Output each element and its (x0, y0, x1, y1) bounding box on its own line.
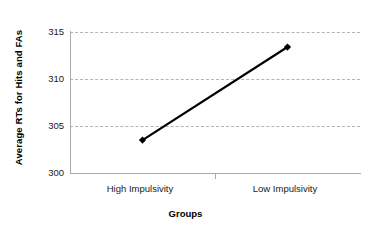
x-tick-label-low-impulsivity: Low Impulsivity (230, 183, 340, 194)
line-chart: Average RTs for Hits and FAs 315 310 305… (0, 0, 371, 236)
data-series (70, 32, 360, 173)
y-tick-label-300: 300 (38, 168, 64, 178)
y-tick-label-315: 315 (38, 27, 64, 37)
y-tick-label-310: 310 (38, 74, 64, 84)
x-axis-title: Groups (0, 208, 371, 219)
x-axis-tick-mid (215, 173, 216, 179)
x-tick-label-high-impulsivity: High Impulsivity (85, 183, 195, 194)
series-line (143, 47, 288, 140)
y-axis-title: Average RTs for Hits and FAs (13, 18, 24, 178)
y-tick-label-305: 305 (38, 121, 64, 131)
y-axis-tick-labels: 315 310 305 300 (36, 0, 64, 236)
